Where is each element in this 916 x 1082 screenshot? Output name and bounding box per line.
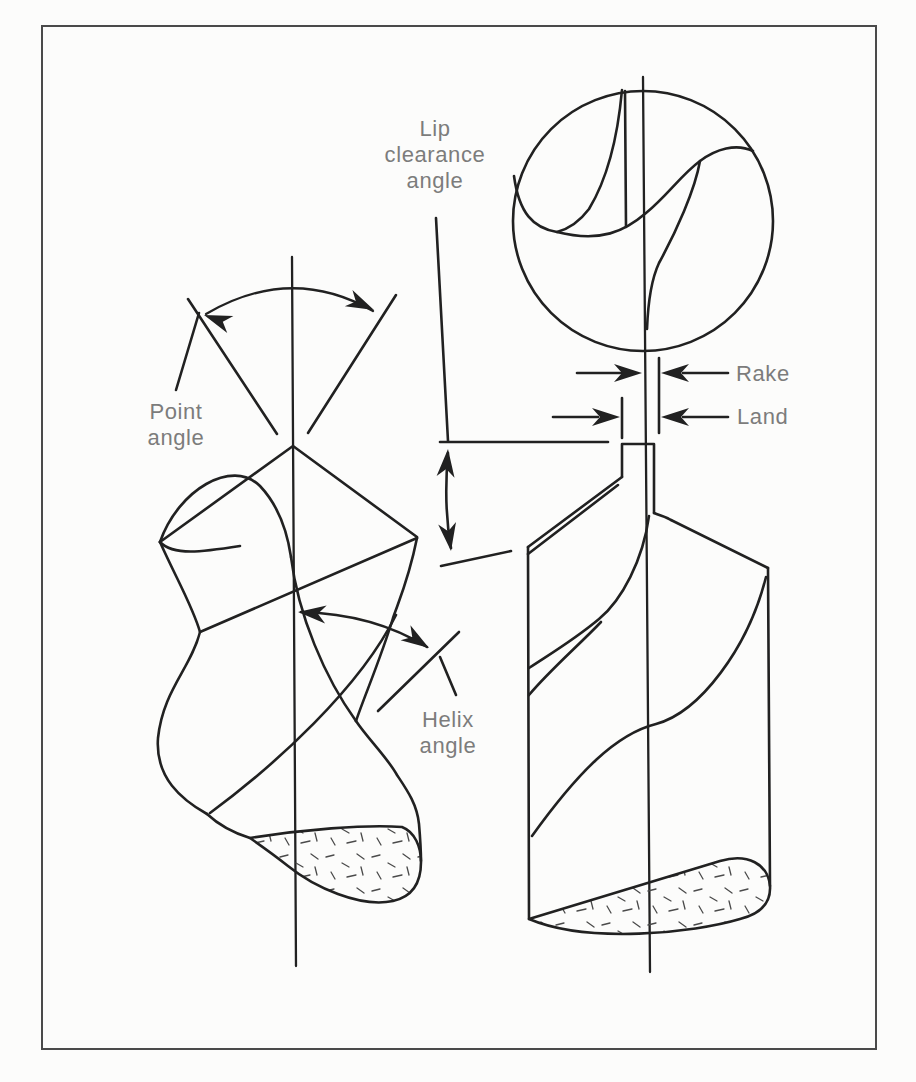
body-right-edge xyxy=(768,568,770,886)
detail-cutting-lip xyxy=(514,147,753,236)
label-lip-clearance-angle: Lip clearance angle xyxy=(370,116,500,194)
detail-flute-left xyxy=(557,90,622,232)
flute-hook xyxy=(160,542,240,552)
shoulder-chamfer-2 xyxy=(528,485,618,554)
arrowhead-icon xyxy=(345,290,378,318)
cusp-join xyxy=(207,814,250,838)
back-edge xyxy=(200,538,417,632)
page: { "labels": { "lip_clearance_angle": "Li… xyxy=(0,0,916,1082)
point-angle-line-right xyxy=(308,295,396,433)
spiral-edge xyxy=(210,615,396,813)
annotations xyxy=(301,218,728,711)
label-rake: Rake xyxy=(736,361,790,387)
label-helix-angle: Helix angle xyxy=(403,707,493,759)
detail-rake-face xyxy=(625,91,626,227)
shoulder-chamfer-1 xyxy=(528,477,622,547)
lip-clearance-leader xyxy=(436,218,448,441)
apex-curve xyxy=(654,513,671,520)
web-neck xyxy=(622,444,654,513)
point-angle-arc xyxy=(206,288,373,314)
drill-tip xyxy=(160,446,417,542)
flute-hump xyxy=(160,476,291,557)
right-shoulder xyxy=(671,520,768,568)
right-drill xyxy=(513,77,773,972)
left-outline xyxy=(158,542,207,814)
arrowhead-icon xyxy=(401,625,434,655)
label-point-angle: Point angle xyxy=(131,399,221,451)
helix-tick xyxy=(440,657,456,695)
flute-mid xyxy=(291,557,356,721)
point-angle-tick-left xyxy=(176,313,199,390)
body-left-edge xyxy=(528,547,529,919)
left-drill xyxy=(158,257,421,966)
label-land: Land xyxy=(737,404,788,430)
left-section-lens xyxy=(250,826,421,902)
arrowhead-icon xyxy=(201,307,233,333)
flute-spiral-1b xyxy=(529,622,601,695)
right-outline-upper xyxy=(356,538,417,721)
lip-clearance-ref-slant xyxy=(441,551,511,566)
